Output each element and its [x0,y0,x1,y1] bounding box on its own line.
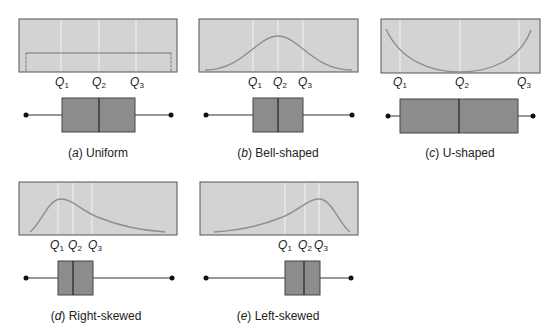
panel-left-skewed: Q1 Q2 Q3 (e) Left-skewed [0,0,370,332]
caption-text: U-shaped [443,146,495,160]
density-plot-area [200,182,358,235]
max-dot [531,114,536,119]
max-dot [349,276,354,281]
caption-left-skewed: (e) Left-skewed [237,309,320,323]
q3-label: Q3 [517,75,531,90]
q2-label: Q2 [298,238,312,253]
caption-u-shaped: (c) U-shaped [425,146,494,160]
q1-label: Q1 [393,75,407,90]
caption-text: Left-skewed [255,309,320,323]
min-dot [386,114,391,119]
left-skewed-chart [0,0,370,332]
q2-label: Q2 [455,75,469,90]
iqr-box [285,261,320,295]
caption-letter: e [241,309,248,323]
q3-label: Q3 [314,238,328,253]
caption-letter: c [429,146,435,160]
q1-label: Q1 [278,238,292,253]
min-dot [204,276,209,281]
